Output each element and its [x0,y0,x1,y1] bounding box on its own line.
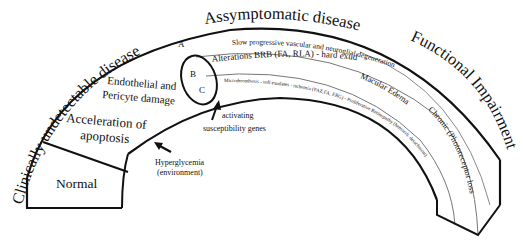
normal-divider [43,142,128,172]
band-divider-bc [206,74,455,225]
acceleration-label-2: apoptosis [80,127,130,146]
genes-arrowhead [213,100,221,110]
inner-arc [128,98,437,200]
hyperglycemia-label-2: (environment) [157,168,203,177]
retinopathy-progression-diagram: Clinically undetectable disease Assympto… [0,0,523,245]
hyperglycemia-label-1: Hyperglycemia [155,158,205,167]
stage-functional-impairment: Functional Impairment [408,26,521,151]
marker-c: C [199,85,205,95]
genes-label-2: susceptibility genes [203,124,266,133]
genes-label-1: activating [222,111,254,120]
marker-b: B [190,69,196,79]
right-closure [437,200,500,235]
marker-a: A [178,39,185,49]
inner-arc-left [122,154,128,208]
normal-label: Normal [56,176,97,191]
